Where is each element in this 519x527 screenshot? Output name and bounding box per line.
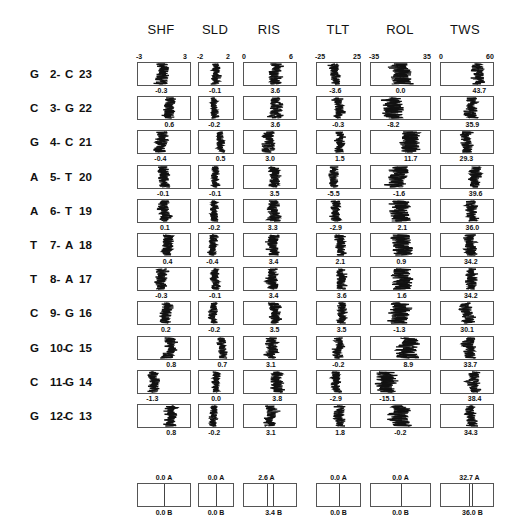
- trajectory-box-ris: [243, 370, 297, 394]
- trajectory-trace: [317, 166, 360, 188]
- trajectory-trace: [371, 371, 430, 393]
- mean-value-label: 34.3: [464, 429, 478, 436]
- trajectory-box-tlt: [316, 165, 361, 189]
- trajectory-trace: [199, 371, 233, 393]
- trajectory-trace: [441, 166, 493, 188]
- trajectory-trace: [138, 166, 190, 188]
- trajectory-trace: [317, 302, 360, 324]
- mean-value-label: -0.3: [332, 121, 344, 128]
- trajectory-box-sld: [198, 404, 234, 428]
- trajectory-trace: [138, 371, 190, 393]
- base-pair-token: 16: [79, 307, 92, 319]
- reference-box-rol: [370, 483, 431, 507]
- mean-value-label: 0.0: [211, 395, 221, 402]
- mean-value-label: 1.6: [397, 292, 407, 299]
- mean-value-label: -0.2: [208, 429, 220, 436]
- mean-value-label: 35.9: [465, 121, 479, 128]
- base-pair-token: G: [65, 307, 74, 319]
- column-header-tlt: TLT: [326, 22, 349, 37]
- trajectory-box-shf: [137, 62, 191, 86]
- trajectory-box-sld: [198, 96, 234, 120]
- trajectory-trace: [138, 63, 190, 85]
- trajectory-box-tws: [440, 165, 494, 189]
- mean-value-label: 1.5: [335, 155, 345, 162]
- trajectory-trace: [441, 97, 493, 119]
- reference-b-line: [273, 484, 274, 506]
- trajectory-trace: [199, 166, 233, 188]
- mean-value-label: 34.2: [464, 292, 478, 299]
- trajectory-trace: [317, 234, 360, 256]
- mean-value-label: 0.2: [161, 326, 171, 333]
- base-pair-token: 23: [79, 68, 92, 80]
- mean-value-label: 0.8: [166, 429, 176, 436]
- trajectory-box-tlt: [316, 301, 361, 325]
- trajectory-trace: [317, 268, 360, 290]
- mean-value-label: 29.3: [460, 155, 474, 162]
- mean-value-label: 3.3: [268, 224, 278, 231]
- reference-b-label: 3.4 B: [265, 509, 282, 516]
- trajectory-trace: [441, 234, 493, 256]
- trajectory-trace: [317, 405, 360, 427]
- base-pair-token: T: [65, 171, 72, 183]
- trajectory-box-shf: [137, 96, 191, 120]
- trajectory-trace: [138, 200, 190, 222]
- base-pair-token: T: [30, 273, 37, 285]
- base-pair-token: 4-: [50, 136, 60, 148]
- trajectory-trace: [244, 405, 296, 427]
- mean-value-label: 3.1: [266, 361, 276, 368]
- trajectory-box-shf: [137, 404, 191, 428]
- base-pair-token: 7-: [50, 239, 60, 251]
- trajectory-trace: [317, 200, 360, 222]
- mean-value-label: -2.9: [330, 224, 342, 231]
- reference-b-label: 0.0 B: [156, 509, 173, 516]
- reference-b-line: [472, 484, 473, 506]
- trajectory-box-rol: [370, 96, 431, 120]
- column-header-shf: SHF: [148, 22, 175, 37]
- base-pair-token: G: [30, 68, 39, 80]
- mean-value-label: -0.3: [155, 292, 167, 299]
- reference-box-tlt: [316, 483, 361, 507]
- trajectory-trace: [244, 97, 296, 119]
- trajectory-trace: [244, 234, 296, 256]
- reference-b-line: [164, 484, 165, 506]
- trajectory-trace: [244, 302, 296, 324]
- trajectory-trace: [317, 63, 360, 85]
- base-pair-token: T: [30, 239, 37, 251]
- trajectory-trace: [244, 200, 296, 222]
- base-pair-label: T7-A18: [0, 238, 122, 252]
- trajectory-trace: [138, 405, 190, 427]
- base-pair-token: C: [30, 102, 38, 114]
- trajectory-box-tws: [440, 301, 494, 325]
- column-header-sld: SLD: [202, 22, 228, 37]
- trajectory-box-tws: [440, 62, 494, 86]
- trajectory-trace: [317, 97, 360, 119]
- trajectory-box-rol: [370, 233, 431, 257]
- trajectory-box-sld: [198, 165, 234, 189]
- mean-value-label: -0.4: [154, 155, 166, 162]
- mean-value-label: -15.1: [379, 395, 395, 402]
- axis-max-label: 35: [423, 53, 431, 60]
- mean-value-label: 1.8: [335, 429, 345, 436]
- trajectory-box-rol: [370, 301, 431, 325]
- base-pair-label: G4-C21: [0, 135, 122, 149]
- axis-min-label: 0: [242, 53, 246, 60]
- trajectory-box-tlt: [316, 130, 361, 154]
- trajectory-box-ris: [243, 165, 297, 189]
- reference-b-label: 0.0 B: [330, 509, 347, 516]
- axis-min-label: -3: [136, 53, 142, 60]
- trajectory-box-ris: [243, 404, 297, 428]
- mean-value-label: 11.7: [404, 155, 417, 162]
- trajectory-trace: [371, 405, 430, 427]
- trajectory-trace: [441, 302, 493, 324]
- reference-b-label: 36.0 B: [462, 509, 483, 516]
- trajectory-box-ris: [243, 336, 297, 360]
- trajectory-box-tws: [440, 267, 494, 291]
- mean-value-label: 0.5: [216, 155, 226, 162]
- base-pair-label: G10-C15: [0, 341, 122, 355]
- trajectory-trace: [138, 337, 190, 359]
- mean-value-label: -1.6: [393, 190, 405, 197]
- trajectory-box-shf: [137, 370, 191, 394]
- trajectory-box-tlt: [316, 370, 361, 394]
- trajectory-trace: [244, 166, 296, 188]
- mean-value-label: 43.7: [473, 87, 487, 94]
